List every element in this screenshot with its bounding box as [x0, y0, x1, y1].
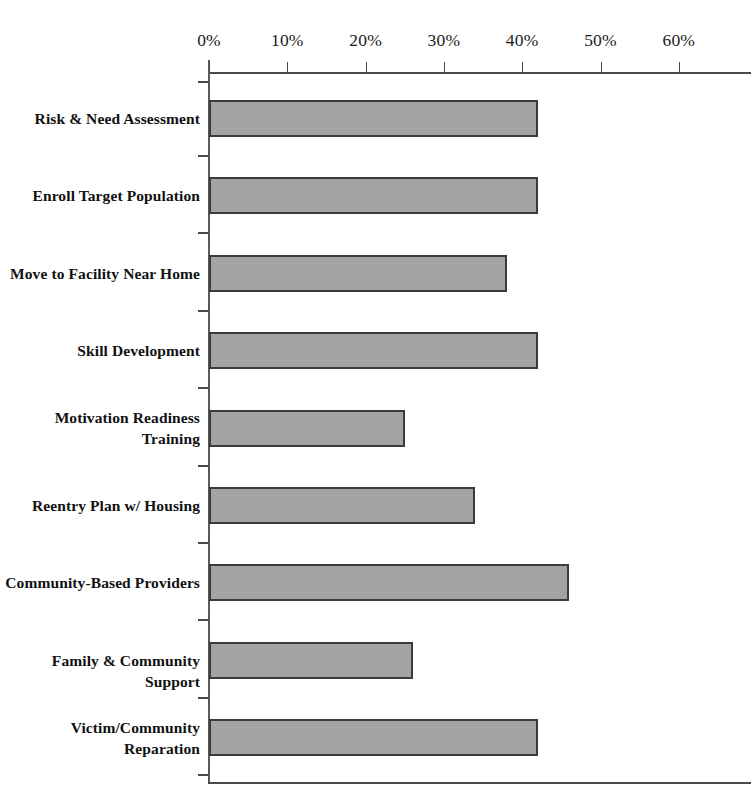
x-axis-tick-labels: 0%10%20%30%40%50%60%7 — [0, 30, 751, 56]
x-tick-label: 20% — [349, 30, 382, 51]
bar — [209, 719, 538, 756]
x-tick-mark — [601, 62, 602, 73]
y-tick-mark — [198, 697, 209, 699]
x-tick-mark — [366, 62, 367, 73]
y-tick-mark — [198, 542, 209, 544]
y-tick-mark — [198, 465, 209, 467]
bar — [209, 255, 507, 292]
x-tick-mark — [679, 62, 680, 73]
bar — [209, 564, 569, 601]
x-tick-label: 60% — [662, 30, 695, 51]
category-label: Risk & Need Assessment — [0, 108, 200, 129]
category-label: Skill Development — [0, 340, 200, 361]
bar — [209, 410, 405, 447]
x-tick-mark — [444, 62, 445, 73]
bar — [209, 100, 538, 137]
x-tick-label: 50% — [584, 30, 617, 51]
y-tick-mark — [198, 619, 209, 621]
category-label: Community-Based Providers — [0, 572, 200, 593]
x-tick-label: 0% — [197, 30, 221, 51]
x-tick-label: 40% — [506, 30, 539, 51]
category-label: Move to Facility Near Home — [0, 263, 200, 284]
y-tick-mark — [198, 310, 209, 312]
y-tick-mark — [198, 232, 209, 234]
category-label: Enroll Target Population — [0, 185, 200, 206]
plot-bottom-rule — [208, 782, 751, 784]
category-label: Motivation Readiness Training — [0, 407, 200, 449]
category-label: Victim/Community Reparation — [0, 717, 200, 759]
x-axis-line — [209, 72, 751, 74]
category-label: Reentry Plan w/ Housing — [0, 495, 200, 516]
y-tick-mark — [198, 387, 209, 389]
category-label: Family & Community Support — [0, 650, 200, 692]
x-tick-label: 30% — [428, 30, 461, 51]
bar-chart: 0%10%20%30%40%50%60%7 Risk & Need Assess… — [0, 0, 751, 802]
x-tick-mark — [287, 62, 288, 73]
x-tick-mark — [522, 62, 523, 73]
bar — [209, 487, 475, 524]
x-tick-mark — [209, 62, 210, 73]
y-tick-mark — [198, 81, 209, 83]
y-tick-mark — [198, 774, 209, 776]
x-tick-label: 10% — [271, 30, 304, 51]
bar — [209, 177, 538, 214]
bar — [209, 642, 413, 679]
bar — [209, 332, 538, 369]
y-tick-mark — [198, 155, 209, 157]
